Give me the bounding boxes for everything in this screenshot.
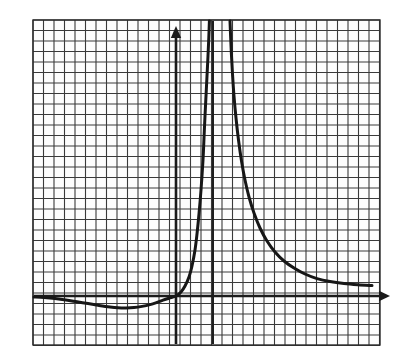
graph-canvas (0, 0, 404, 360)
graph-figure: Graph of a rational function with a vert… (0, 0, 404, 360)
